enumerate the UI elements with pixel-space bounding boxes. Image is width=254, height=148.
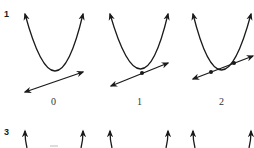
parabola-curve [193, 14, 251, 70]
intersection-point [232, 61, 236, 65]
intersection-diagram: 1 0 1 2 3 [0, 0, 254, 148]
intersection-point [209, 70, 213, 74]
caption-2: 2 [219, 96, 224, 107]
curve-arm [110, 131, 112, 148]
curve-arm [249, 131, 251, 148]
panel-zero-intersections: 0 [25, 14, 83, 107]
caption-1: 1 [137, 96, 142, 107]
curve-arm [193, 131, 195, 148]
row-label-1: 1 [4, 9, 9, 19]
secant-line [193, 56, 253, 79]
panel-one-intersection: 1 [110, 14, 168, 107]
parabola-curve [110, 14, 168, 69]
row-label-3: 3 [4, 127, 9, 137]
panel-two-intersections: 2 [193, 14, 253, 107]
caption-0: 0 [51, 96, 56, 107]
row-3-cropped-curves [25, 131, 251, 148]
curve-arm [25, 131, 27, 148]
intersection-point [140, 71, 144, 75]
line [25, 72, 83, 92]
curve-arm [81, 131, 83, 148]
curve-arm [166, 131, 168, 148]
tangent-line [111, 63, 168, 86]
parabola-curve [25, 14, 83, 71]
